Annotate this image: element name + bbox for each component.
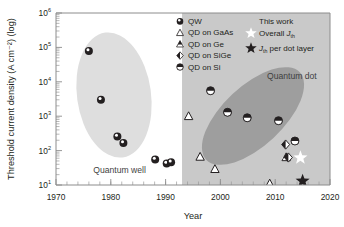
x-tick-label: 2000 [211, 192, 230, 202]
data-point-qw [85, 47, 93, 55]
legend-label-qd-on-sige: QD on SiGe [188, 51, 232, 60]
data-point-qd-on-si [207, 87, 215, 95]
x-axis-title: Year [184, 211, 203, 221]
x-tick-label: 1970 [47, 192, 66, 202]
x-tick-label: 1990 [156, 192, 175, 202]
y-tick-label: 106 [39, 7, 51, 18]
figure-container: Quantum well Quantum dot 101102103104105… [0, 0, 344, 227]
this-work-heading: This work [259, 17, 294, 26]
y-tick-label: 103 [39, 110, 51, 121]
legend-label-jth-per-dot-layer-star: Jth per dot layer [258, 44, 314, 54]
y-axis-title: Threshold current density (A cm⁻²) (log) [6, 18, 16, 180]
data-point-qw [119, 139, 127, 147]
data-point-qd-on-si [243, 114, 251, 122]
x-tick-label: 2010 [266, 192, 285, 202]
qd-si-marker-icon [177, 64, 184, 71]
legend-label-overall-jth-star: Overall Jth [259, 29, 295, 39]
legend-label-qd-on-gaas: QD on GaAs [188, 28, 233, 37]
legend-label-qd-on-si: QD on Si [188, 63, 221, 72]
data-point-qd-on-si [224, 108, 232, 116]
legend-label-qw: QW [188, 17, 202, 26]
x-tick-label: 2020 [321, 192, 340, 202]
legend-label-qd-on-ge: QD on Ge [188, 40, 225, 49]
data-point-qd-on-si [274, 117, 282, 125]
x-tick-label: 1980 [101, 192, 120, 202]
y-tick-label: 104 [39, 76, 51, 87]
data-point-qw [167, 158, 175, 166]
y-tick-label: 105 [39, 41, 51, 52]
quantum-dot-region-label: Quantum dot [267, 71, 317, 81]
quantum-well-region-label: Quantum well [93, 165, 146, 175]
data-point-qw [97, 96, 105, 104]
data-point-qw [151, 156, 159, 164]
y-tick-label: 102 [39, 145, 51, 156]
threshold-current-density-scatter-chart: Quantum well Quantum dot 101102103104105… [0, 0, 344, 227]
qw-marker-icon [177, 18, 184, 25]
data-point-qd-on-si [291, 137, 299, 145]
data-point-qw [113, 133, 121, 141]
y-tick-label: 101 [39, 179, 51, 190]
